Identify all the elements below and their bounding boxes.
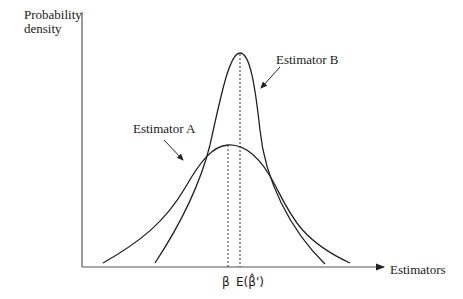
estimator-b-label: Estimator B bbox=[276, 53, 338, 67]
x-axis-label: Estimators bbox=[390, 263, 446, 277]
estimator-a-label: Estimator A bbox=[133, 122, 195, 136]
estimator-b-pointer-arrow bbox=[261, 67, 280, 88]
estimator-a-pointer-arrow bbox=[164, 140, 183, 160]
probability-density-diagram: Probability density Estimators Estimator… bbox=[0, 0, 463, 299]
diagram-canvas bbox=[0, 0, 463, 299]
estimator-a-curve bbox=[103, 145, 350, 263]
y-axis-label: Probability density bbox=[24, 8, 94, 36]
beta-tick-label: β bbox=[222, 275, 230, 289]
expected-beta-tick-label: E(β̂') bbox=[236, 275, 264, 289]
